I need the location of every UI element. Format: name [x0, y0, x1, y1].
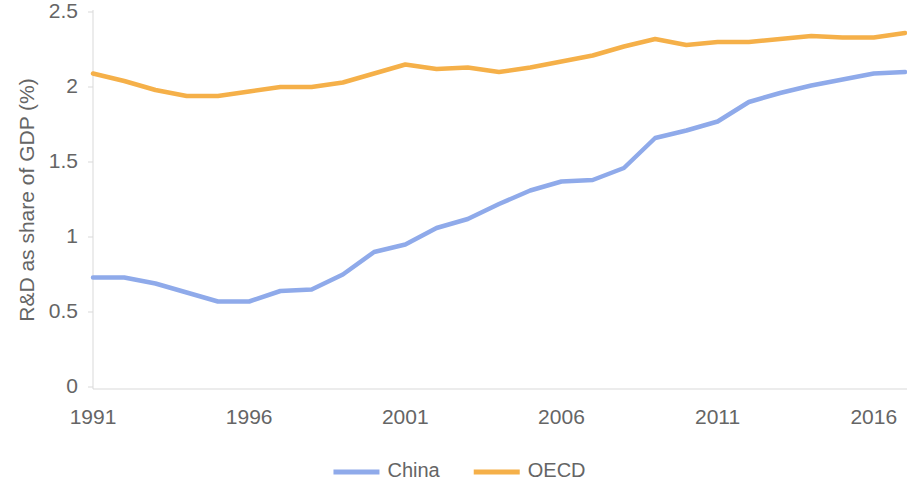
y-tick-label: 0 [66, 374, 78, 397]
x-tick-label: 2001 [382, 405, 429, 428]
y-tick-label: 2.5 [49, 0, 78, 22]
chart-background [0, 0, 907, 489]
y-axis-title: R&D as share of GDP (%) [15, 78, 38, 322]
x-tick-label: 2011 [695, 405, 740, 428]
x-tick-label: 1996 [226, 405, 273, 428]
y-tick-label: 0.5 [49, 299, 78, 322]
line-chart: 00.511.522.5 199119962001200620112016 R&… [0, 0, 907, 489]
chart-canvas: 00.511.522.5 199119962001200620112016 R&… [0, 0, 907, 489]
x-tick-label: 2006 [538, 405, 585, 428]
y-tick-label: 2 [66, 74, 78, 97]
y-tick-label: 1 [66, 224, 78, 247]
legend-label: OECD [528, 459, 586, 481]
legend-label: China [387, 459, 440, 481]
x-tick-label: 1991 [70, 405, 117, 428]
y-tick-label: 1.5 [49, 149, 78, 172]
x-tick-label: 2016 [850, 405, 897, 428]
